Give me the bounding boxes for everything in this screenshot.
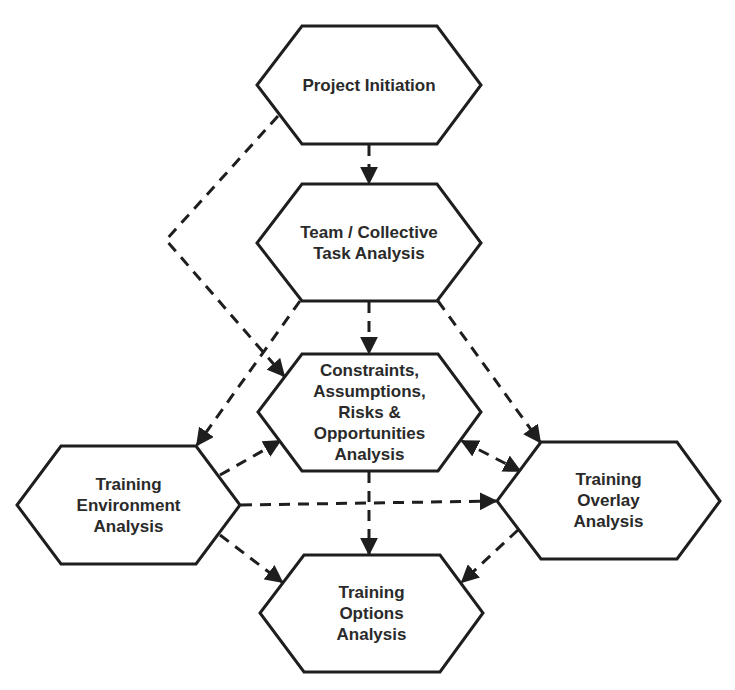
node-project-initiation-label: Project Initiation xyxy=(257,26,481,144)
node-team-collective-label: Team / Collective Task Analysis xyxy=(257,184,481,301)
node-training-environment-label: Training Environment Analysis xyxy=(17,446,240,564)
node-training-overlay-label: Training Overlay Analysis xyxy=(497,442,720,559)
node-constraints-label: Constraints, Assumptions, Risks & Opport… xyxy=(258,354,481,471)
node-training-options-label: Training Options Analysis xyxy=(260,555,483,672)
